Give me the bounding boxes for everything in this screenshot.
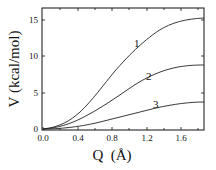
x-axis-label: Q (Å): [92, 147, 131, 164]
curves: [43, 18, 204, 129]
curve-2: [43, 65, 204, 129]
curve-label-1: 1: [134, 37, 140, 49]
plot-frame: [42, 8, 204, 130]
x-tick-label: 1.6: [175, 133, 187, 143]
x-tick-label: 1.2: [141, 133, 152, 143]
x-tick-label: 0.8: [106, 133, 118, 143]
y-tick-label: 5: [34, 88, 39, 98]
y-tick-label: 15: [29, 15, 39, 25]
y-ticks: [42, 20, 204, 93]
y-tick-label: 10: [29, 51, 39, 61]
x-tick-label: 0.4: [72, 133, 84, 143]
x-tick-label: 0.0: [37, 133, 49, 143]
curve-1: [43, 18, 204, 129]
curve-3: [43, 102, 204, 129]
curve-label-3: 3: [153, 98, 159, 110]
curve-label-2: 2: [146, 70, 152, 82]
chart: 0.0 0.4 0.8 1.2 1.6 0 5 10 15 Q (Å) V (k…: [0, 0, 216, 170]
y-tick-label: 0: [34, 124, 39, 134]
y-axis-label: V (kcal/mol): [6, 31, 23, 108]
x-ticks: [43, 8, 198, 130]
